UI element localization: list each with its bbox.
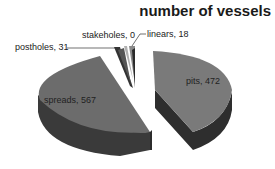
label-linears: linears, 18 — [147, 29, 189, 39]
pie-chart — [0, 0, 275, 169]
label-spreads: spreads, 567 — [44, 95, 96, 105]
label-stakeholes: stakeholes, 0 — [82, 30, 135, 40]
label-pits: pits, 472 — [186, 76, 220, 86]
slice-pits — [153, 51, 232, 150]
label-postholes: postholes, 31 — [15, 42, 69, 52]
